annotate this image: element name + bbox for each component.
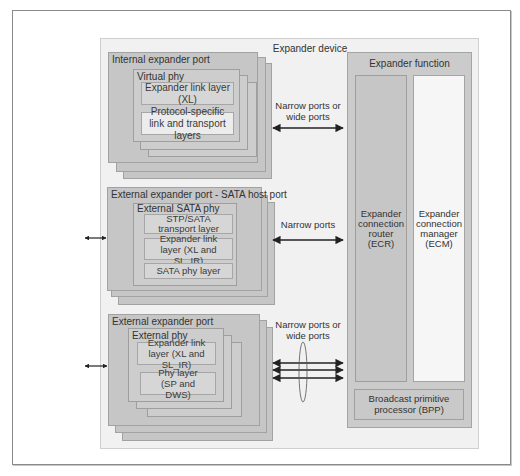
wide-port-grouping-ellipse: [299, 342, 307, 402]
connection-arrows: [0, 0, 520, 476]
